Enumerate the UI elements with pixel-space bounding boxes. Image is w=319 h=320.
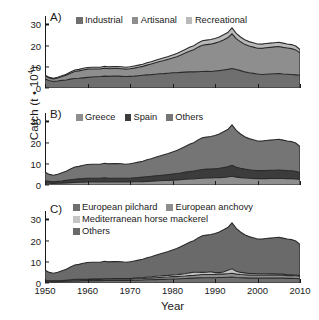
x-tick-mark xyxy=(130,181,131,185)
y-tick-mark xyxy=(45,121,49,122)
panel-b-by-country: B) GreeceSpainOthers 0102030 xyxy=(45,113,300,185)
x-tick-label: 2000 xyxy=(247,285,268,296)
legend-label: Industrial xyxy=(85,15,123,26)
x-tick-label: 1990 xyxy=(204,285,225,296)
legend-label: Mediterranean horse mackerel xyxy=(82,214,208,225)
y-tick-label: 20 xyxy=(30,137,41,148)
x-tick-label: 1950 xyxy=(34,285,55,296)
x-tick-mark xyxy=(300,181,301,185)
legend-item-european-pilchard: European pilchard xyxy=(73,202,157,213)
panel-b-legend: GreeceSpainOthers xyxy=(76,112,209,124)
figure-mediterranean-catch: Catch (t • 104) A) IndustrialArtisanalRe… xyxy=(0,0,319,320)
legend-label: Greece xyxy=(85,112,116,123)
y-tick-label: 10 xyxy=(30,61,41,72)
x-tick-mark xyxy=(258,279,259,283)
legend-label: Recreational xyxy=(195,15,247,26)
legend-swatch-icon xyxy=(73,204,80,211)
y-tick-label: 0 xyxy=(36,83,41,94)
x-axis-label: Year xyxy=(40,300,305,312)
x-tick-mark xyxy=(173,181,174,185)
y-tick-label: 30 xyxy=(30,19,41,30)
y-tick-label: 10 xyxy=(30,158,41,169)
legend-label: Spain xyxy=(134,112,158,123)
legend-row: IndustrialArtisanalRecreational xyxy=(76,15,253,26)
x-tick-label: 2010 xyxy=(289,285,310,296)
panel-c-legend: European pilchardEuropean anchovyMediter… xyxy=(73,202,259,238)
x-tick-mark xyxy=(215,84,216,88)
legend-item-recreational: Recreational xyxy=(186,15,247,26)
legend-item-spain: Spain xyxy=(125,112,158,123)
y-tick-mark xyxy=(45,261,49,262)
x-tick-mark xyxy=(130,279,131,283)
panel-c-by-species: C) European pilchardEuropean anchovyMedi… xyxy=(45,211,300,283)
x-tick-label: 1980 xyxy=(162,285,183,296)
legend-label: Others xyxy=(175,112,203,123)
y-tick-label: 20 xyxy=(30,40,41,51)
x-tick-mark xyxy=(88,279,89,283)
x-tick-mark xyxy=(88,84,89,88)
legend-item-european-anchovy: European anchovy xyxy=(166,202,253,213)
y-tick-mark xyxy=(45,45,49,46)
y-tick-label: 30 xyxy=(30,116,41,127)
y-tick-label: 30 xyxy=(30,214,41,225)
x-tick-mark xyxy=(88,181,89,185)
y-tick-mark xyxy=(45,163,49,164)
x-tick-mark xyxy=(300,279,301,283)
legend-swatch-icon xyxy=(186,17,193,24)
x-tick-mark xyxy=(258,84,259,88)
panel-a-by-sector: A) IndustrialArtisanalRecreational 01020… xyxy=(45,16,300,88)
x-tick-mark xyxy=(258,181,259,185)
y-tick-mark xyxy=(45,24,49,25)
legend-swatch-icon xyxy=(73,216,80,223)
x-tick-mark xyxy=(45,181,46,185)
x-tick-mark xyxy=(173,279,174,283)
panel-a-legend: IndustrialArtisanalRecreational xyxy=(76,15,253,27)
legend-swatch-icon xyxy=(76,17,83,24)
x-tick-mark xyxy=(45,279,46,283)
legend-row: GreeceSpainOthers xyxy=(76,112,209,123)
legend-swatch-icon xyxy=(132,17,139,24)
legend-row: Mediterranean horse mackerel xyxy=(73,214,259,225)
legend-row: European pilchardEuropean anchovy xyxy=(73,202,259,213)
legend-label: European pilchard xyxy=(82,202,157,213)
legend-swatch-icon xyxy=(125,114,132,121)
y-tick-mark xyxy=(45,66,49,67)
legend-swatch-icon xyxy=(166,204,173,211)
legend-item-industrial: Industrial xyxy=(76,15,123,26)
y-tick-label: 10 xyxy=(30,256,41,267)
legend-item-mediterranean-horse-mackerel: Mediterranean horse mackerel xyxy=(73,214,208,225)
y-tick-mark xyxy=(45,142,49,143)
x-tick-mark xyxy=(300,84,301,88)
x-tick-mark xyxy=(215,181,216,185)
y-tick-label: 0 xyxy=(36,180,41,191)
legend-swatch-icon xyxy=(76,114,83,121)
legend-item-others: Others xyxy=(166,112,203,123)
x-tick-mark xyxy=(173,84,174,88)
panel-a-label: A) xyxy=(50,11,62,23)
legend-item-greece: Greece xyxy=(76,112,116,123)
y-tick-mark xyxy=(45,240,49,241)
y-tick-label: 20 xyxy=(30,235,41,246)
legend-label: Others xyxy=(82,226,110,237)
y-tick-mark xyxy=(45,219,49,220)
panel-c-label: C) xyxy=(50,203,62,215)
legend-row: Others xyxy=(73,226,259,237)
x-tick-label: 1960 xyxy=(77,285,98,296)
x-tick-label: 1970 xyxy=(119,285,140,296)
x-tick-mark xyxy=(130,84,131,88)
legend-label: European anchovy xyxy=(175,202,253,213)
legend-label: Artisanal xyxy=(141,15,177,26)
panel-b-label: B) xyxy=(50,108,62,120)
x-tick-mark xyxy=(215,279,216,283)
legend-swatch-icon xyxy=(166,114,173,121)
legend-swatch-icon xyxy=(73,228,80,235)
x-tick-mark xyxy=(45,84,46,88)
legend-item-others: Others xyxy=(73,226,110,237)
legend-item-artisanal: Artisanal xyxy=(132,15,177,26)
